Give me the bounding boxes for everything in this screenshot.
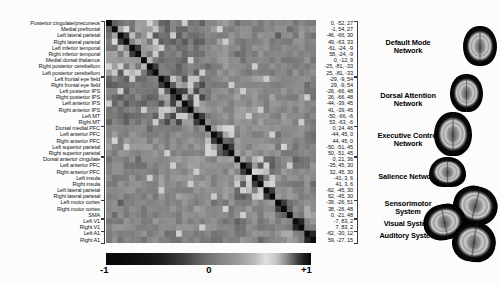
axial-brain-image (463, 26, 497, 66)
region-label-column: Posterior cingulate/precuneusMedial pref… (0, 20, 100, 243)
network-name: Dorsal AttentionNetwork (358, 92, 458, 109)
connectivity-matrix-figure: Posterior cingulate/precuneusMedial pref… (0, 0, 501, 285)
network-bracket (101, 126, 105, 157)
axial-brain-image (434, 112, 472, 156)
correlation-matrix-heatmap (106, 20, 316, 243)
coronal-brain-image (429, 157, 466, 187)
network-bracket (101, 21, 105, 77)
colorbar-max-label: +1 (301, 264, 323, 275)
axial-brain-image (450, 74, 483, 112)
network-bracket (101, 231, 105, 244)
region-coordinate-column: 0, -52, 27-1, 54, 27-46, -66, 3049, -63,… (316, 20, 353, 243)
network-bracket (101, 200, 105, 219)
region-label: Right A1 (0, 237, 100, 243)
network-bracket (101, 157, 105, 201)
network-name: Default ModeNetwork (358, 39, 458, 56)
colorbar-min-label: -1 (100, 264, 118, 275)
network-bracket (101, 77, 105, 127)
colorbar-zero-label: 0 (202, 264, 216, 275)
region-coordinate: 59, -27, 15 (316, 237, 353, 243)
network-bracket (101, 219, 105, 232)
